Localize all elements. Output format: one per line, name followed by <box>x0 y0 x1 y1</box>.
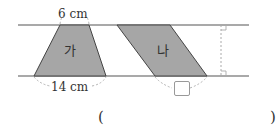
figure-canvas <box>0 0 278 138</box>
top-side-label: 6 cm <box>58 8 88 20</box>
bottom-side-label: 14 cm <box>51 81 88 93</box>
shape-label-ga: 가 <box>64 44 76 57</box>
right-angle-mark-top <box>221 25 226 30</box>
shape-label-na: 나 <box>157 44 169 57</box>
answer-input-box[interactable] <box>174 81 190 96</box>
right-angle-mark-bottom <box>221 71 226 76</box>
answer-close-paren: ) <box>270 110 276 125</box>
answer-open-paren: ( <box>98 110 104 125</box>
